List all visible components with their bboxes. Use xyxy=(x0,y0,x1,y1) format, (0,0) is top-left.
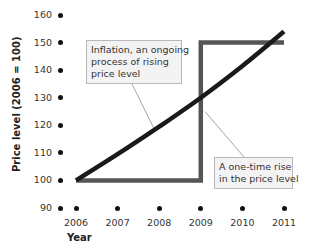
x-tick-dot xyxy=(74,206,79,211)
x-tick-label: 2006 xyxy=(61,218,91,228)
y-axis-title: Price level (2006 = 100) xyxy=(12,37,22,173)
y-tick-label: 100 xyxy=(28,175,52,185)
inflation-callout: Inflation, an ongoing process of rising … xyxy=(86,40,182,84)
y-tick-label: 160 xyxy=(28,10,52,20)
x-tick-dot xyxy=(282,206,287,211)
x-tick-dot xyxy=(115,206,120,211)
x-tick-label: 2008 xyxy=(144,218,174,228)
callout-leader-lines xyxy=(130,80,244,157)
x-tick-dot xyxy=(198,206,203,211)
y-tick-dot xyxy=(58,206,63,211)
x-tick-dot xyxy=(157,206,162,211)
x-tick-label: 2009 xyxy=(186,218,216,228)
y-tick-dot xyxy=(58,178,63,183)
inflation-callout-line-3: price level xyxy=(91,68,177,80)
y-tick-label: 90 xyxy=(28,203,52,213)
one-time-rise-callout: A one-time rise in the price level xyxy=(214,157,293,189)
inflation-leader-line xyxy=(130,80,155,131)
x-axis-title: Year xyxy=(67,233,92,243)
price-level-chart: 90100110120130140150160 2006200720082009… xyxy=(0,0,311,251)
inflation-callout-line-2: process of rising xyxy=(91,56,177,68)
y-tick-label: 110 xyxy=(28,148,52,158)
y-tick-label: 150 xyxy=(28,38,52,48)
one-time-callout-line-1: A one-time rise xyxy=(219,161,288,173)
x-tick-dot xyxy=(240,206,245,211)
y-tick-label: 120 xyxy=(28,120,52,130)
y-tick-dot xyxy=(58,123,63,128)
x-tick-label: 2010 xyxy=(227,218,257,228)
x-tick-label: 2007 xyxy=(103,218,133,228)
one-time-leader-line xyxy=(205,112,244,158)
y-tick-label: 140 xyxy=(28,65,52,75)
y-tick-dot xyxy=(58,68,63,73)
y-tick-dot xyxy=(58,13,63,18)
y-tick-label: 130 xyxy=(28,93,52,103)
one-time-callout-line-2: in the price level xyxy=(219,173,288,185)
x-tick-label: 2011 xyxy=(269,218,299,228)
inflation-callout-line-1: Inflation, an ongoing xyxy=(91,44,177,56)
